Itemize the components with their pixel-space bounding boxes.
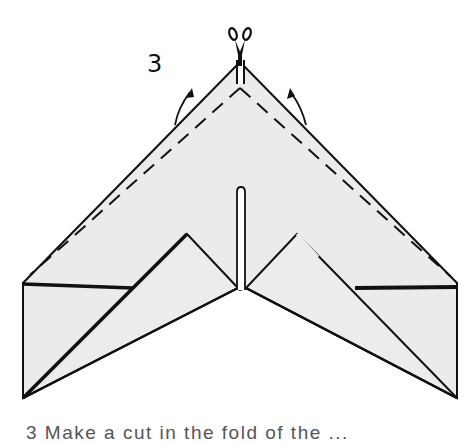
cut-slit (237, 187, 245, 290)
caption-text: 3 Make a cut in the fold of the ... (26, 423, 349, 442)
step-number: 3 (147, 52, 162, 76)
scissors-icon (228, 27, 253, 66)
